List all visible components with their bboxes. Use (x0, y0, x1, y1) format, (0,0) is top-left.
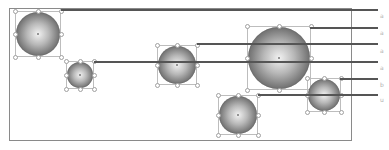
leader-label: b (380, 82, 384, 88)
sphere-1-resize-handle[interactable] (59, 32, 64, 37)
sphere-5-resize-handle[interactable] (305, 76, 310, 81)
sphere-1-resize-handle[interactable] (36, 9, 41, 14)
sphere-1-resize-handle[interactable] (36, 55, 41, 60)
leader-line[interactable] (197, 43, 378, 45)
sphere-3-resize-handle[interactable] (155, 83, 160, 88)
sphere-5-resize-handle[interactable] (322, 110, 327, 115)
sphere-1-resize-handle[interactable] (59, 55, 64, 60)
sphere-2-resize-handle[interactable] (78, 87, 83, 92)
sphere-2-resize-handle[interactable] (64, 87, 69, 92)
sphere-3-resize-handle[interactable] (175, 83, 180, 88)
sphere-3-resize-handle[interactable] (195, 63, 200, 68)
sphere-5-resize-handle[interactable] (322, 76, 327, 81)
sphere-2-resize-handle[interactable] (64, 59, 69, 64)
sphere-4-resize-handle[interactable] (245, 56, 250, 61)
sphere-6-resize-handle[interactable] (216, 133, 221, 138)
sphere-6-resize-handle[interactable] (236, 93, 241, 98)
leader-label: a (380, 48, 384, 54)
leader-line[interactable] (94, 61, 378, 63)
leader-label: a (380, 65, 384, 71)
diagram-canvas: aaaabu (0, 0, 389, 150)
sphere-6-resize-handle[interactable] (256, 113, 261, 118)
sphere-6-resize-handle[interactable] (216, 93, 221, 98)
sphere-2-resize-handle[interactable] (92, 73, 97, 78)
leader-line[interactable] (340, 78, 378, 80)
sphere-4-resize-handle[interactable] (309, 56, 314, 61)
leader-line[interactable] (61, 9, 378, 11)
sphere-4-resize-handle[interactable] (277, 24, 282, 29)
sphere-1-resize-handle[interactable] (13, 55, 18, 60)
sphere-3-resize-handle[interactable] (175, 43, 180, 48)
sphere-2-resize-handle[interactable] (92, 87, 97, 92)
leader-label: a (380, 30, 384, 36)
leader-line[interactable] (310, 27, 378, 29)
leader-label: a (380, 13, 384, 19)
sphere-6-resize-handle[interactable] (216, 113, 221, 118)
leader-line[interactable] (258, 94, 378, 96)
sphere-3-resize-handle[interactable] (155, 43, 160, 48)
sphere-6-center-point (237, 114, 239, 116)
sphere-2-resize-handle[interactable] (78, 59, 83, 64)
sphere-6-resize-handle[interactable] (256, 133, 261, 138)
sphere-5-resize-handle[interactable] (305, 110, 310, 115)
leader-label: u (380, 97, 384, 103)
sphere-5-resize-handle[interactable] (339, 110, 344, 115)
sphere-2-center-point (79, 74, 81, 76)
sphere-4-resize-handle[interactable] (277, 88, 282, 93)
sphere-1-center-point (37, 33, 39, 35)
sphere-4-center-point (278, 57, 280, 59)
sphere-3-resize-handle[interactable] (195, 83, 200, 88)
sphere-1-resize-handle[interactable] (13, 9, 18, 14)
sphere-6-resize-handle[interactable] (236, 133, 241, 138)
sphere-3-resize-handle[interactable] (155, 63, 160, 68)
sphere-2-resize-handle[interactable] (64, 73, 69, 78)
sphere-3-center-point (176, 64, 178, 66)
sphere-1-resize-handle[interactable] (13, 32, 18, 37)
sphere-4-resize-handle[interactable] (245, 24, 250, 29)
sphere-4-resize-handle[interactable] (245, 88, 250, 93)
